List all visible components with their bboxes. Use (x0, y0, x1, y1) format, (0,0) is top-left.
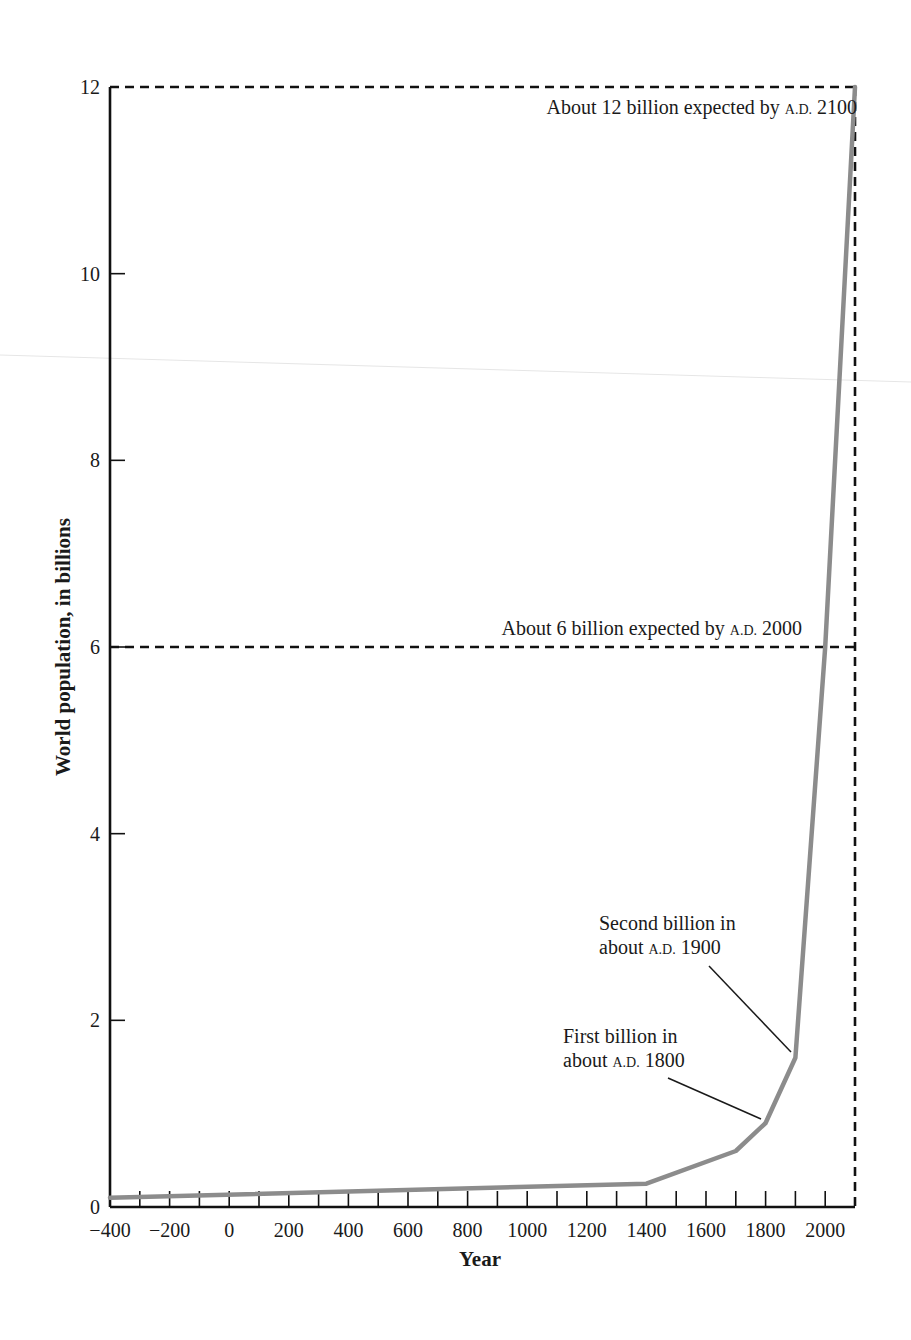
x-tick-label: 1400 (626, 1219, 666, 1241)
leader-line-first-billion (668, 1078, 761, 1119)
annotation-12-era: A.D. (785, 102, 812, 117)
annotation-12-prefix: About 12 billion expected by (546, 96, 784, 119)
annotation-6-era: A.D. (730, 623, 757, 638)
y-tick-label: 6 (90, 636, 100, 658)
x-tick-label: 1800 (746, 1219, 786, 1241)
y-tick-label: 4 (90, 823, 100, 845)
y-tick-label: 2 (90, 1009, 100, 1031)
x-tick-label: 1200 (567, 1219, 607, 1241)
x-tick-label: 400 (333, 1219, 363, 1241)
y-tick-label: 0 (90, 1196, 100, 1218)
annotation-first-year: 1800 (645, 1049, 685, 1071)
y-axis-title: World population, in billions (51, 518, 75, 776)
x-axis-title: Year (459, 1247, 501, 1271)
annotation-6-billion: About 6 billion expected by A.D.2000 (501, 617, 802, 640)
scan-artifact-line (0, 355, 911, 382)
annotation-first-era: A.D. (612, 1055, 639, 1070)
annotation-second-era: A.D. (648, 942, 675, 957)
x-tick-label: 800 (453, 1219, 483, 1241)
plot-area: 024681012−400−20002004006008001000120014… (80, 76, 855, 1241)
y-tick-label: 8 (90, 449, 100, 471)
x-tick-label: 200 (274, 1219, 304, 1241)
annotation-first-billion-line1: First billion in (563, 1025, 677, 1047)
annotation-first-prefix: about (563, 1049, 612, 1071)
x-tick-label: 1600 (686, 1219, 726, 1241)
population-chart: 024681012−400−20002004006008001000120014… (0, 0, 911, 1340)
x-tick-label: 0 (224, 1219, 234, 1241)
population-curve (110, 87, 855, 1198)
leader-line-second-billion (709, 966, 791, 1052)
annotation-second-billion-line1: Second billion in (599, 912, 736, 934)
annotation-second-billion-line2: about A.D.1900 (599, 936, 721, 958)
annotation-12-year: 2100 (817, 96, 857, 118)
annotation-6-prefix: About 6 billion expected by (501, 617, 729, 640)
y-tick-label: 12 (80, 76, 100, 98)
annotation-first-billion-line2: about A.D.1800 (563, 1049, 685, 1071)
x-tick-label: −400 (89, 1219, 130, 1241)
y-tick-label: 10 (80, 263, 100, 285)
annotation-6-year: 2000 (762, 617, 802, 639)
x-tick-label: 2000 (805, 1219, 845, 1241)
annotation-second-year: 1900 (681, 936, 721, 958)
annotation-12-billion: About 12 billion expected by A.D.2100 (546, 96, 857, 119)
x-tick-label: 600 (393, 1219, 423, 1241)
x-tick-label: −200 (149, 1219, 190, 1241)
x-tick-label: 1000 (507, 1219, 547, 1241)
annotation-second-prefix: about (599, 936, 648, 958)
